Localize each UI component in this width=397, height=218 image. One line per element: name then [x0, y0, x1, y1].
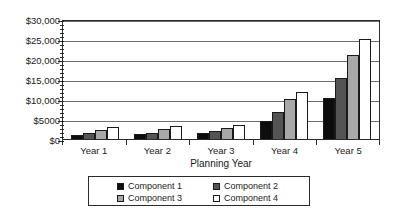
bar[interactable] — [134, 134, 146, 139]
y-axis-labels: $0$5000$10,000$15,000$20,000$25,000$30,0… — [0, 20, 60, 140]
bar-groups — [63, 21, 379, 139]
legend-swatch-icon — [213, 195, 220, 202]
bar-group — [253, 21, 316, 139]
x-axis-tick-label: Year 4 — [253, 145, 317, 159]
bar-set — [323, 21, 371, 139]
legend-label: Component 4 — [224, 193, 278, 203]
legend-swatch-icon — [117, 183, 124, 190]
bar-group — [126, 21, 189, 139]
y-axis-tick-label: $5000 — [2, 116, 60, 125]
y-axis-tick-label: $10,000 — [2, 96, 60, 105]
bar[interactable] — [158, 129, 170, 139]
bar-group — [316, 21, 379, 139]
bar-set — [260, 21, 308, 139]
bar[interactable] — [71, 135, 83, 139]
bar[interactable] — [221, 128, 233, 139]
legend-swatch-icon — [117, 195, 124, 202]
bar-set — [71, 21, 119, 139]
y-axis-tick-label: $30,000 — [2, 16, 60, 25]
bar[interactable] — [260, 121, 272, 139]
y-axis-tick-label: $15,000 — [2, 76, 60, 85]
bar[interactable] — [359, 39, 371, 139]
legend-item[interactable]: Component 1 — [95, 181, 199, 191]
bar[interactable] — [146, 133, 158, 139]
legend-label: Component 2 — [224, 181, 278, 191]
bar[interactable] — [323, 98, 335, 139]
x-axis-tick-label: Year 3 — [189, 145, 253, 159]
chart-legend: Component 1Component 2Component 3Compone… — [88, 176, 310, 206]
x-axis-title: Planning Year — [62, 158, 380, 170]
legend-item[interactable]: Component 3 — [95, 193, 199, 203]
legend-swatch-icon — [213, 183, 220, 190]
legend-item[interactable]: Component 4 — [199, 193, 303, 203]
y-axis-tick-label: $0 — [2, 136, 60, 145]
bar[interactable] — [233, 125, 245, 139]
bar[interactable] — [284, 99, 296, 139]
bar-set — [197, 21, 245, 139]
bar-group — [63, 21, 126, 139]
bar[interactable] — [209, 131, 221, 139]
bar[interactable] — [335, 78, 347, 139]
bar[interactable] — [272, 112, 284, 139]
x-axis-tick-label: Year 2 — [126, 145, 190, 159]
bar[interactable] — [296, 92, 308, 139]
bar[interactable] — [83, 133, 95, 139]
x-axis-labels: Year 1Year 2Year 3Year 4Year 5 — [62, 145, 380, 159]
x-axis-tick-label: Year 5 — [316, 145, 380, 159]
legend-grid: Component 1Component 2Component 3Compone… — [89, 179, 309, 205]
legend-item[interactable]: Component 2 — [199, 181, 303, 191]
bar[interactable] — [347, 55, 359, 139]
bar-chart: $0$5000$10,000$15,000$20,000$25,000$30,0… — [0, 0, 397, 218]
bar[interactable] — [95, 130, 107, 139]
bar-group — [189, 21, 252, 139]
bar[interactable] — [107, 127, 119, 139]
y-axis-tick-label: $25,000 — [2, 36, 60, 45]
bar-set — [134, 21, 182, 139]
bar[interactable] — [170, 126, 182, 139]
legend-label: Component 3 — [128, 193, 182, 203]
x-axis-tick-label: Year 1 — [62, 145, 126, 159]
y-axis-tick-label: $20,000 — [2, 56, 60, 65]
legend-label: Component 1 — [128, 181, 182, 191]
bar[interactable] — [197, 133, 209, 139]
plot-area — [62, 20, 380, 140]
